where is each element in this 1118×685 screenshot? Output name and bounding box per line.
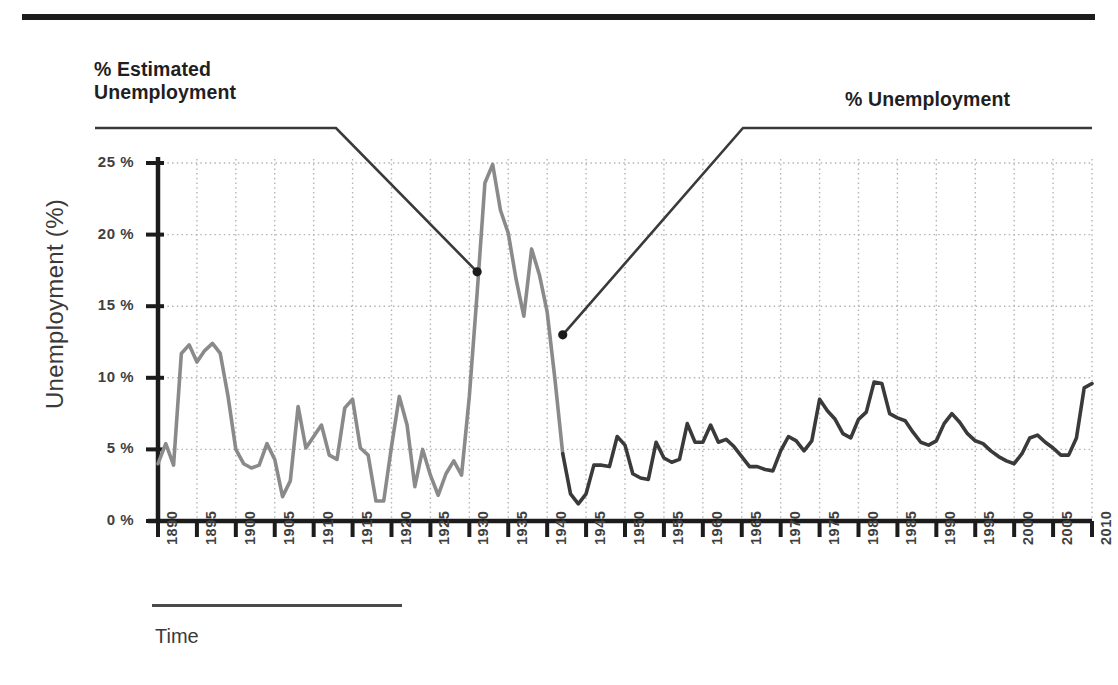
x-tick-label: 1920: [398, 511, 414, 545]
y-tick-label: 15 %: [74, 296, 134, 313]
x-tick-label: 1995: [981, 511, 997, 545]
x-tick-label: 1980: [865, 511, 881, 545]
y-tick-label: 0 %: [74, 511, 134, 528]
gridlines: [158, 159, 1092, 521]
x-tick-label: 2005: [1059, 511, 1075, 545]
y-tick-label: 25 %: [74, 153, 134, 170]
y-tick-label: 20 %: [74, 225, 134, 242]
x-tick-label: 1940: [553, 511, 569, 545]
x-tick-label: 1900: [242, 511, 258, 545]
y-tick-label: 10 %: [74, 368, 134, 385]
x-tick-label: 2000: [1020, 511, 1036, 545]
x-tick-label: 1945: [592, 511, 608, 545]
unemployment-line-chart: [0, 0, 1118, 685]
x-tick-label: 1930: [475, 511, 491, 545]
x-axis-caption-rule: [152, 604, 402, 607]
x-tick-label: 1990: [942, 511, 958, 545]
x-tick-label: 1890: [164, 511, 180, 545]
x-tick-label: 1915: [359, 511, 375, 545]
x-tick-label: 1935: [514, 511, 530, 545]
x-tick-label: 2010: [1098, 511, 1114, 545]
x-tick-label: 1895: [203, 511, 219, 545]
x-tick-label: 1970: [787, 511, 803, 545]
x-axis-title: Time: [155, 625, 199, 648]
y-axis-title: Unemployment (%): [41, 189, 69, 419]
x-tick-label: 1905: [281, 511, 297, 545]
x-tick-label: 1975: [826, 511, 842, 545]
callout-leader-lines: [95, 128, 1092, 339]
x-tick-label: 1910: [320, 511, 336, 545]
x-tick-label: 1950: [631, 511, 647, 545]
x-tick-label: 1960: [709, 511, 725, 545]
x-tick-label: 1965: [748, 511, 764, 545]
x-tick-label: 1985: [903, 511, 919, 545]
y-tick-label: 5 %: [74, 439, 134, 456]
x-tick-label: 1955: [670, 511, 686, 545]
axes: [146, 157, 1092, 537]
x-tick-label: 1925: [436, 511, 452, 545]
